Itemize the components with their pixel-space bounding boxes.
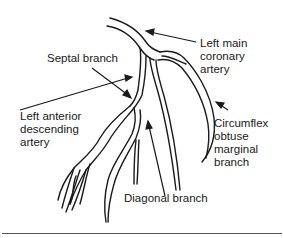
label-left-main-coronary-artery: Left main coronary artery — [200, 37, 247, 76]
bottom-divider — [2, 233, 282, 234]
label-septal-branch: Septal branch — [47, 52, 118, 65]
leader-left-main — [146, 29, 196, 42]
ramus-branch — [150, 58, 180, 190]
label-left-anterior-descending-artery: Left anterior descending artery — [20, 110, 81, 149]
leader-diagonal — [146, 121, 165, 196]
leader-lad — [20, 75, 132, 110]
leader-circumflex — [216, 102, 228, 110]
label-diagonal-branch: Diagonal branch — [124, 192, 208, 205]
label-circumflex-obtuse-marginal-branch: Circumflex obtuse marginal branch — [214, 117, 268, 169]
